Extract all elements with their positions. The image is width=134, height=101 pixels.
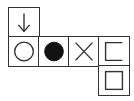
hollow-circle-icon <box>9 37 39 66</box>
down-arrow-icon <box>9 8 39 37</box>
face-filled-circle <box>38 36 70 67</box>
face-down-arrow <box>8 7 40 38</box>
square-icon <box>99 66 129 95</box>
face-x-cross <box>68 36 100 67</box>
face-hollow-circle <box>8 36 40 67</box>
filled-circle-icon <box>39 37 69 66</box>
face-square-inset <box>98 65 130 96</box>
face-square-open-right <box>98 36 130 67</box>
open-square-icon <box>99 37 129 66</box>
x-cross-icon <box>69 37 99 66</box>
